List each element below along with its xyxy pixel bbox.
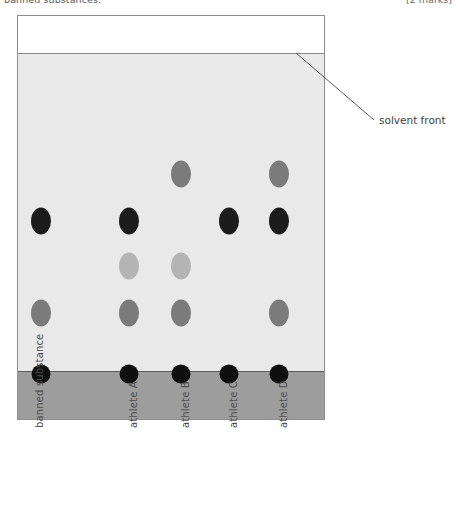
worksheet-page: banned substances. [2 marks] solvent fro… (0, 0, 460, 527)
lane-athlete-c-label: athlete C (228, 381, 239, 428)
chromatogram-spot (119, 300, 139, 327)
chromatogram-spot (269, 161, 289, 188)
chromatogram-spot (269, 208, 289, 235)
chromatogram-spot (31, 300, 51, 327)
solvent-front-line (18, 53, 324, 54)
chromatogram-spot (171, 161, 191, 188)
lane-athlete-b-label: athlete B (180, 381, 191, 428)
lane-athlete-a-label: athlete A (128, 381, 139, 428)
chromatogram-spot (219, 208, 239, 235)
chromatogram-spot (269, 300, 289, 327)
solvent-front-label: solvent front (379, 114, 446, 126)
chromatogram-spot (171, 253, 191, 280)
question-stem-text: banned substances. (4, 0, 101, 5)
chromatography-plate (17, 15, 325, 420)
question-marks-label: [2 marks] (406, 0, 452, 5)
dry-paper-region (18, 16, 324, 53)
lane-athlete-d-label: athlete D (278, 380, 289, 428)
lane-banned-substance-label: banned substance (34, 334, 45, 428)
chromatogram-spot (119, 253, 139, 280)
chromatogram-spot (119, 208, 139, 235)
chromatogram-spot (31, 208, 51, 235)
chromatogram-spot (171, 300, 191, 327)
